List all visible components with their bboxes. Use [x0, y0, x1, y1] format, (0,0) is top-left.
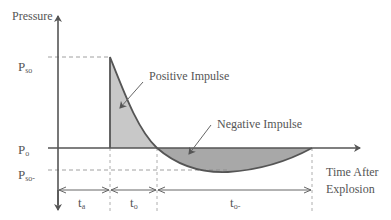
negative-peak-pressure-label: Pso- — [18, 168, 35, 183]
negative-phase-duration-label: to- — [230, 196, 240, 211]
ambient-pressure-label: Po — [18, 143, 29, 158]
y-axis-label: Pressure — [12, 10, 53, 22]
peak-pressure-label: Pso — [18, 60, 32, 75]
x-axis-label-line2: Explosion — [326, 183, 375, 195]
blast-pressure-diagram: Pressure Pso Po Pso- Positive Impulse Ne… — [0, 0, 391, 220]
positive-impulse-label: Positive Impulse — [149, 70, 229, 82]
negative-impulse-label: Negative Impulse — [217, 118, 302, 130]
negative-impulse-area — [157, 148, 312, 172]
x-axis-label-line1: Time After — [326, 166, 379, 178]
positive-phase-duration-label: to — [130, 196, 138, 211]
arrival-time-label: ta — [78, 196, 85, 211]
